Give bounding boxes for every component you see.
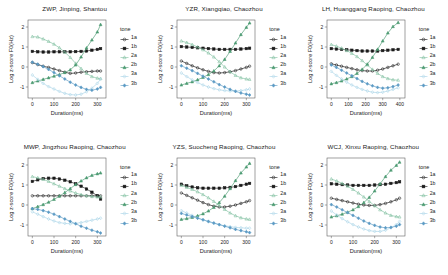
svg-text:100: 100: [50, 101, 59, 107]
legend-label-2a: 2a: [131, 52, 137, 58]
svg-text:-1: -1: [20, 221, 25, 227]
legend-marker-3b: [419, 82, 428, 89]
legend-marker-1a: [419, 174, 428, 181]
legend-item-1b[interactable]: 1b: [120, 183, 129, 191]
legend-item-1a[interactable]: 1a: [120, 174, 129, 182]
legend-item-2b[interactable]: 2b: [269, 64, 278, 72]
svg-text:2: 2: [320, 161, 323, 167]
legend-label-1b: 1b: [131, 180, 137, 186]
legend-label-1a: 1a: [430, 171, 436, 177]
svg-text:-1: -1: [20, 84, 25, 90]
y-axis-label: Log z-score F0(Hz): [157, 172, 163, 220]
legend-item-3b[interactable]: 3b: [419, 220, 428, 228]
legend-label-3b: 3b: [430, 217, 436, 223]
panel-3: MWP, Jingzhou Raoping, Chaozhou010020030…: [0, 138, 149, 275]
svg-text:0: 0: [31, 101, 34, 107]
legend-item-1a[interactable]: 1a: [120, 36, 129, 44]
svg-text:1: 1: [22, 181, 25, 187]
legend-item-1a[interactable]: 1a: [269, 36, 278, 44]
legend-item-2b[interactable]: 2b: [419, 64, 428, 72]
legend-marker-2a: [120, 192, 129, 199]
legend-item-3b[interactable]: 3b: [269, 220, 278, 228]
panel-2: LH, Huanggang Raoping, Chaozhou010020030…: [299, 0, 448, 138]
legend-item-2b[interactable]: 2b: [120, 64, 129, 72]
legend-item-1b[interactable]: 1b: [269, 183, 278, 191]
legend-item-2a[interactable]: 2a: [419, 54, 428, 62]
svg-text:0: 0: [171, 201, 174, 207]
legend-item-3b[interactable]: 3b: [120, 220, 129, 228]
legend-item-1b[interactable]: 1b: [419, 183, 428, 191]
legend-item-3a[interactable]: 3a: [120, 73, 129, 81]
svg-text:300: 300: [93, 238, 102, 244]
y-axis-label: Log z-score F0(Hz): [8, 35, 14, 83]
svg-text:200: 200: [370, 238, 379, 244]
legend-item-1a[interactable]: 1a: [419, 36, 428, 44]
legend-item-2a[interactable]: 2a: [269, 192, 278, 200]
legend-marker-3b: [419, 220, 428, 227]
x-axis-label: Duration(ms): [51, 247, 83, 253]
svg-text:100: 100: [50, 238, 59, 244]
legend-item-2b[interactable]: 2b: [269, 201, 278, 209]
legend-item-2a[interactable]: 2a: [120, 54, 129, 62]
legend-item-2a[interactable]: 2a: [120, 192, 129, 200]
legend-label-1b: 1b: [280, 43, 286, 49]
legend-title: tone: [419, 26, 430, 32]
svg-text:200: 200: [71, 101, 80, 107]
legend-item-2a[interactable]: 2a: [419, 192, 428, 200]
svg-text:-1: -1: [169, 221, 174, 227]
legend-item-1a[interactable]: 1a: [419, 174, 428, 182]
legend-marker-3b: [120, 82, 129, 89]
legend-item-3a[interactable]: 3a: [419, 73, 428, 81]
legend-marker-2b: [419, 64, 428, 71]
legend-item-1a[interactable]: 1a: [269, 174, 278, 182]
legend-label-1a: 1a: [430, 34, 436, 40]
legend-marker-1b: [269, 45, 278, 52]
tone-contour-figure-grid: ZWP, Jinping, Shantou0100200300-1012Dura…: [0, 0, 448, 275]
svg-text:300: 300: [392, 238, 401, 244]
legend-marker-1a: [269, 36, 278, 43]
legend-item-3b[interactable]: 3b: [120, 82, 129, 90]
legend-item-3b[interactable]: 3b: [269, 82, 278, 90]
svg-text:1: 1: [22, 44, 25, 50]
legend-item-3a[interactable]: 3a: [269, 210, 278, 218]
svg-text:0: 0: [22, 201, 25, 207]
legend-marker-2b: [269, 201, 278, 208]
legend-marker-2b: [120, 64, 129, 71]
legend-item-3b[interactable]: 3b: [419, 82, 428, 90]
legend-label-3a: 3a: [131, 70, 137, 76]
legend-item-2b[interactable]: 2b: [120, 201, 129, 209]
legend-label-3a: 3a: [280, 208, 286, 214]
legend-title: tone: [269, 164, 280, 170]
svg-text:300: 300: [378, 101, 387, 107]
legend-marker-2a: [419, 54, 428, 61]
legend-title: tone: [120, 26, 131, 32]
legend-item-1b[interactable]: 1b: [419, 45, 428, 53]
legend-item-1b[interactable]: 1b: [120, 45, 129, 53]
legend-marker-2a: [419, 192, 428, 199]
legend-marker-1b: [419, 45, 428, 52]
legend-item-2a[interactable]: 2a: [269, 54, 278, 62]
legend-item-2b[interactable]: 2b: [419, 201, 428, 209]
svg-text:1: 1: [320, 44, 323, 50]
legend-item-3a[interactable]: 3a: [120, 210, 129, 218]
y-axis-label: Log z-score F0(Hz): [8, 172, 14, 220]
legend-item-1b[interactable]: 1b: [269, 45, 278, 53]
svg-text:-1: -1: [169, 84, 174, 90]
x-axis-label: Duration(ms): [200, 110, 232, 116]
x-axis-label: Duration(ms): [200, 247, 232, 253]
legend-item-3a[interactable]: 3a: [419, 210, 428, 218]
legend-marker-3a: [269, 73, 278, 80]
legend-item-3a[interactable]: 3a: [269, 73, 278, 81]
svg-text:1: 1: [320, 181, 323, 187]
svg-text:200: 200: [361, 101, 370, 107]
legend-label-3b: 3b: [131, 80, 137, 86]
panel-0: ZWP, Jinping, Shantou0100200300-1012Dura…: [0, 0, 149, 138]
svg-text:300: 300: [242, 101, 251, 107]
legend-marker-1a: [269, 174, 278, 181]
svg-text:0: 0: [330, 238, 333, 244]
svg-text:200: 200: [221, 238, 230, 244]
legend-marker-2a: [120, 54, 129, 61]
legend-label-1a: 1a: [131, 171, 137, 177]
svg-text:100: 100: [348, 238, 357, 244]
panel-5: WCJ, Xinxu Raoping, Chaozhou0100200300-1…: [299, 138, 448, 275]
